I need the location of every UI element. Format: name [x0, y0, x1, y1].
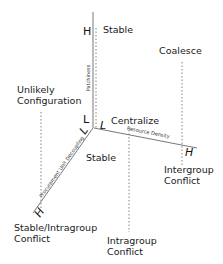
outcome-origin-stable: Stable [86, 152, 116, 163]
patchiness-low-marker: L [83, 113, 90, 126]
three-axis-diagram: Patchiness H L Resource Density L H Proc… [0, 0, 223, 264]
outcome-centralize: Centralize [111, 115, 159, 126]
outcome-intragroup-line2: Conflict [107, 246, 143, 257]
resource-density-low-marker: L [100, 119, 106, 132]
outcome-unlikely-line2: Configuration [17, 95, 81, 106]
procurement-decoupling-high-marker: H [32, 205, 47, 219]
outcome-stable-intragroup-line1: Stable/Intragroup [14, 222, 97, 233]
outcome-coalesce: Coalesce [159, 45, 202, 56]
outcome-stable-intragroup-line2: Conflict [14, 233, 50, 244]
outcome-intergroup-line1: Intergroup [164, 164, 214, 175]
outcome-top-stable: Stable [103, 24, 133, 35]
patchiness-axis-label: Patchiness [85, 64, 91, 91]
procurement-decoupling-axis [33, 128, 93, 213]
outcome-intergroup-line2: Conflict [164, 175, 200, 186]
resource-density-high-marker: H [185, 146, 193, 159]
procurement-decoupling-axis-label: Procurement Unit Decoupling [38, 135, 86, 199]
outcome-unlikely-line1: Unlikely [17, 84, 55, 95]
resource-density-axis-label: Resource Density [126, 125, 170, 140]
patchiness-high-marker: H [83, 25, 91, 38]
outcome-intragroup-line1: Intragroup [107, 235, 157, 246]
